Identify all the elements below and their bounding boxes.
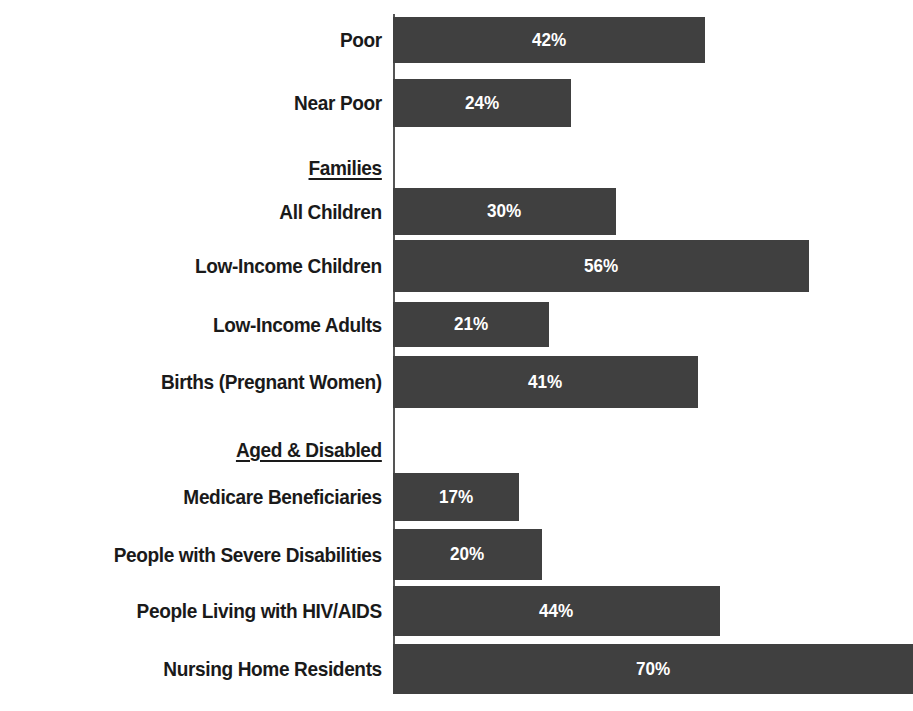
- bar-value-label: 30%: [487, 201, 521, 222]
- bar: 56%: [393, 240, 809, 292]
- category-label: All Children: [28, 201, 393, 223]
- chart-bar-row: Births (Pregnant Women)41%: [0, 356, 884, 408]
- bar: 41%: [393, 356, 698, 408]
- chart-bar-row: Low-Income Children56%: [0, 240, 884, 292]
- bar: 24%: [393, 79, 571, 127]
- chart-bar-row: Near Poor24%: [0, 79, 884, 127]
- bar-track: 21%: [393, 302, 884, 347]
- category-label: Low-Income Children: [28, 255, 393, 277]
- bar-value-label: 41%: [528, 372, 562, 393]
- bar-value-label: 44%: [539, 601, 573, 622]
- bar-track: 17%: [393, 473, 884, 521]
- chart-bar-row: Medicare Beneficiaries17%: [0, 473, 884, 521]
- chart-bar-row: People with Severe Disabilities20%: [0, 529, 884, 580]
- bar: 20%: [393, 529, 542, 580]
- category-label: Low-Income Adults: [28, 314, 393, 336]
- chart-group-header-row: Aged & Disabled: [0, 432, 884, 468]
- chart-bar-row: Low-Income Adults21%: [0, 302, 884, 347]
- bar-value-label: 56%: [584, 256, 618, 277]
- bar-track: 24%: [393, 79, 884, 127]
- chart-bar-row: Nursing Home Residents70%: [0, 644, 884, 694]
- bar: 17%: [393, 473, 519, 521]
- bar-track: 41%: [393, 356, 884, 408]
- group-header-label: Families: [28, 157, 393, 179]
- bar-value-label: 42%: [532, 30, 566, 51]
- bar-track: 20%: [393, 529, 884, 580]
- bar-value-label: 70%: [636, 659, 670, 680]
- bar: 70%: [393, 644, 913, 694]
- bar-track: 70%: [393, 644, 884, 694]
- category-label: Births (Pregnant Women): [28, 371, 393, 393]
- bar-track: 44%: [393, 586, 884, 636]
- chart-bar-row: Poor42%: [0, 17, 884, 63]
- bar-track: 42%: [393, 17, 884, 63]
- bar-track: [393, 150, 884, 186]
- category-label: Nursing Home Residents: [28, 658, 393, 680]
- bar: 42%: [393, 17, 705, 63]
- category-label: Near Poor: [28, 92, 393, 114]
- bar: 30%: [393, 188, 616, 235]
- bar-value-label: 21%: [454, 314, 488, 335]
- chart-bar-row: All Children30%: [0, 188, 884, 235]
- bar-value-label: 17%: [439, 487, 473, 508]
- bar-value-label: 24%: [465, 93, 499, 114]
- bar-value-label: 20%: [450, 544, 484, 565]
- bar-track: 30%: [393, 188, 884, 235]
- category-label: People Living with HIV/AIDS: [28, 600, 393, 622]
- bar-track: [393, 432, 884, 468]
- category-label: Medicare Beneficiaries: [28, 486, 393, 508]
- chart-group-header-row: Families: [0, 150, 884, 186]
- bar-track: 56%: [393, 240, 884, 292]
- bar: 21%: [393, 302, 549, 347]
- bar: 44%: [393, 586, 720, 636]
- group-header-label: Aged & Disabled: [28, 439, 393, 461]
- category-label: People with Severe Disabilities: [28, 544, 393, 566]
- chart-bar-row: People Living with HIV/AIDS44%: [0, 586, 884, 636]
- category-label: Poor: [28, 29, 393, 51]
